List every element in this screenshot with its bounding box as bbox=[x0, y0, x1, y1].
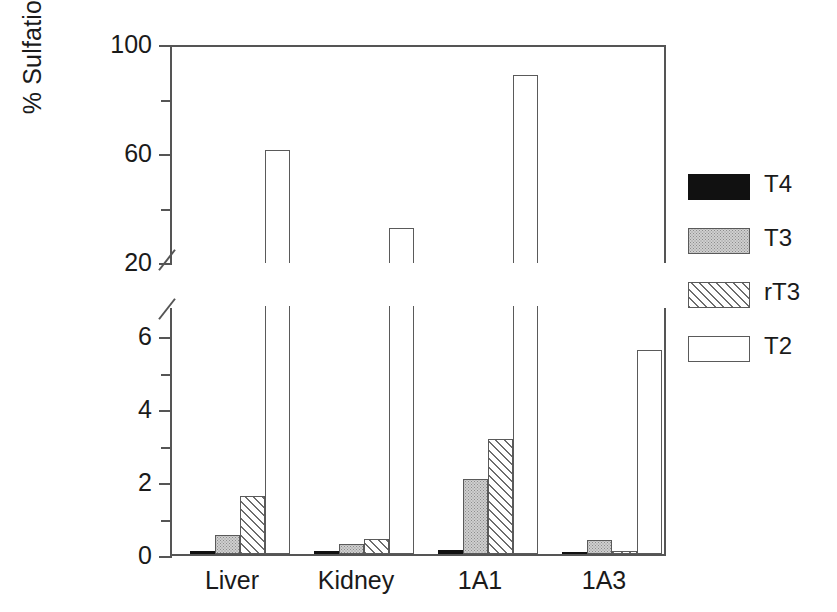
y-tick-minor bbox=[161, 520, 170, 522]
legend-label-t3: T3 bbox=[764, 224, 792, 252]
x-axis-label-kidney: Kidney bbox=[294, 566, 418, 595]
chart-figure: % Sulfation 1006020 6420 LiverKidney1A11… bbox=[0, 0, 837, 612]
y-tick-minor bbox=[161, 209, 170, 211]
bar-1a3-t2 bbox=[637, 350, 662, 554]
bar-1a1-t3 bbox=[463, 479, 488, 554]
axis-break-mark bbox=[158, 298, 184, 320]
bar-liver-t3 bbox=[215, 535, 240, 554]
bar-kidney-t4 bbox=[314, 551, 339, 554]
bar-kidney-t2 bbox=[389, 306, 414, 554]
upper-plot-panel bbox=[170, 45, 666, 263]
upper-plot-area bbox=[172, 47, 664, 263]
legend-swatch-rt3 bbox=[688, 282, 750, 308]
lower-plot-panel bbox=[170, 308, 666, 556]
y-tick-major bbox=[159, 154, 172, 156]
legend-swatch-t3 bbox=[688, 228, 750, 254]
bar-kidney-t3 bbox=[339, 544, 364, 554]
y-tick-minor bbox=[161, 374, 170, 376]
y-tick-label: 60 bbox=[42, 141, 152, 166]
bar-liver-t2-upper bbox=[265, 150, 290, 263]
y-tick-label: 0 bbox=[42, 543, 152, 568]
y-tick-label: 2 bbox=[42, 470, 152, 495]
legend-item-t3: T3 bbox=[688, 222, 828, 276]
y-tick-major bbox=[159, 483, 172, 485]
y-tick-minor bbox=[161, 100, 170, 102]
y-tick-label: 6 bbox=[42, 324, 152, 349]
legend-item-t2: T2 bbox=[688, 330, 828, 384]
y-tick-label: 100 bbox=[42, 32, 152, 57]
axis-break-mark bbox=[158, 249, 184, 271]
bar-1a1-rt3 bbox=[488, 439, 513, 554]
x-axis-label-1a1: 1A1 bbox=[418, 566, 542, 595]
bar-1a3-rt3 bbox=[612, 551, 637, 554]
bar-liver-rt3 bbox=[240, 496, 265, 554]
lower-plot-area bbox=[172, 308, 664, 554]
bar-1a1-t2-upper bbox=[513, 75, 538, 263]
bar-liver-t2 bbox=[265, 306, 290, 554]
legend-swatch-t2 bbox=[688, 336, 750, 362]
bar-liver-t4 bbox=[190, 551, 215, 554]
x-axis-label-1a3: 1A3 bbox=[542, 566, 666, 595]
legend-label-rt3: rT3 bbox=[764, 278, 800, 306]
bar-1a1-t4 bbox=[438, 550, 463, 554]
y-tick-major bbox=[159, 337, 172, 339]
y-tick-major bbox=[159, 410, 172, 412]
y-tick-label: 4 bbox=[42, 397, 152, 422]
legend-label-t2: T2 bbox=[764, 332, 792, 360]
bar-1a3-t4 bbox=[562, 552, 587, 555]
legend-item-rt3: rT3 bbox=[688, 276, 828, 330]
y-tick-major bbox=[159, 45, 172, 47]
y-tick-major bbox=[159, 556, 172, 558]
legend-swatch-t4 bbox=[688, 174, 750, 200]
legend-label-t4: T4 bbox=[764, 170, 792, 198]
y-tick-label: 20 bbox=[42, 250, 152, 275]
bar-1a3-t3 bbox=[587, 540, 612, 554]
legend: T4T3rT3T2 bbox=[688, 168, 828, 384]
bar-kidney-rt3 bbox=[364, 539, 389, 554]
bar-1a1-t2 bbox=[513, 306, 538, 554]
legend-item-t4: T4 bbox=[688, 168, 828, 222]
x-axis-label-liver: Liver bbox=[170, 566, 294, 595]
y-tick-minor bbox=[161, 447, 170, 449]
bar-kidney-t2-upper bbox=[389, 228, 414, 263]
